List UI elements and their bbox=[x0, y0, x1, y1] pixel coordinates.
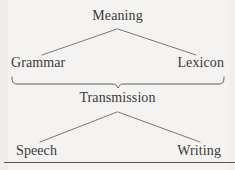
node-grammar: Grammar bbox=[11, 55, 65, 71]
node-lexicon: Lexicon bbox=[177, 55, 224, 71]
node-meaning: Meaning bbox=[0, 8, 235, 24]
connector-transmission-speech bbox=[40, 112, 117, 142]
node-writing: Writing bbox=[177, 143, 221, 159]
connector-meaning-lexicon bbox=[118, 29, 196, 55]
connector-transmission-writing bbox=[118, 112, 200, 142]
node-speech: Speech bbox=[16, 143, 57, 159]
bottom-divider bbox=[4, 162, 235, 163]
diagram-canvas: Meaning Grammar Lexicon Transmission Spe… bbox=[0, 0, 235, 170]
connector-meaning-grammar bbox=[42, 29, 117, 55]
node-transmission: Transmission bbox=[0, 90, 235, 106]
brace-grammar-lexicon bbox=[12, 77, 224, 88]
